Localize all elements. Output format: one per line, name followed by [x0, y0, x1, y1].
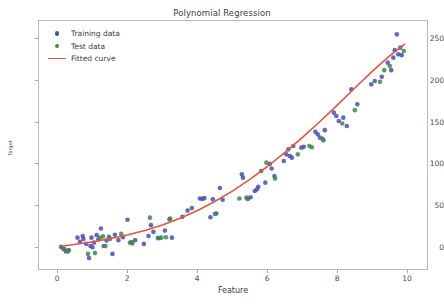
legend-dot-swatch — [55, 44, 60, 49]
data-point — [282, 159, 287, 164]
data-point — [185, 208, 190, 213]
data-point — [345, 124, 350, 129]
data-point — [125, 217, 130, 222]
data-point — [248, 195, 253, 200]
data-point — [202, 196, 207, 201]
data-point — [353, 108, 358, 113]
data-point — [146, 234, 151, 239]
legend-line-swatch — [48, 58, 66, 60]
data-point — [163, 228, 168, 233]
data-point — [340, 121, 345, 126]
legend-marker — [46, 44, 68, 49]
data-point — [190, 206, 195, 211]
data-point — [208, 215, 213, 220]
data-point — [103, 244, 108, 249]
data-point — [87, 256, 92, 261]
x-tick-mark — [337, 270, 338, 273]
data-point — [378, 80, 383, 85]
legend-label: Fitted curve — [71, 54, 116, 63]
data-point — [301, 145, 306, 150]
data-point — [369, 82, 374, 87]
data-point — [310, 145, 315, 150]
data-point — [142, 242, 147, 247]
scatter-series — [59, 32, 404, 260]
data-point — [148, 215, 153, 220]
data-point — [75, 235, 80, 240]
data-point — [86, 252, 91, 257]
data-point — [130, 241, 135, 246]
data-point — [149, 223, 154, 228]
legend-label: Test data — [71, 42, 105, 51]
legend-label: Training data — [71, 29, 120, 38]
legend-item[interactable]: Training data — [46, 29, 120, 38]
chart-legend: Training dataTest dataFitted curve — [43, 26, 126, 66]
y-axis-label: Target — [7, 118, 13, 178]
x-tick-label: 4 — [182, 274, 212, 283]
data-point — [241, 175, 246, 180]
data-point — [399, 53, 404, 58]
data-point — [168, 216, 173, 221]
data-point — [379, 75, 384, 80]
chart-figure: Polynomial Regression Target 05010015020… — [0, 0, 444, 304]
data-point — [389, 68, 394, 73]
data-point — [388, 64, 393, 69]
fitted-curve-line — [60, 44, 405, 246]
x-tick-label: 0 — [42, 274, 72, 283]
x-tick-label: 10 — [392, 274, 422, 283]
x-tick-mark — [57, 270, 58, 273]
data-point — [81, 237, 86, 242]
data-point — [244, 195, 249, 200]
data-point — [159, 235, 164, 240]
legend-dot-swatch — [55, 31, 60, 36]
data-point — [164, 235, 169, 240]
data-point — [264, 160, 269, 165]
data-point — [355, 102, 360, 107]
data-point — [66, 249, 71, 254]
data-point — [290, 155, 295, 160]
data-point — [93, 251, 98, 256]
data-point — [402, 49, 407, 54]
data-point — [116, 238, 121, 243]
data-point — [110, 252, 115, 257]
data-point — [99, 226, 104, 231]
legend-marker — [46, 58, 68, 60]
data-point — [218, 186, 223, 191]
data-point — [320, 136, 325, 141]
data-point — [256, 185, 261, 190]
data-point — [269, 166, 274, 171]
legend-item[interactable]: Fitted curve — [46, 54, 120, 63]
data-point — [273, 176, 278, 181]
data-point — [334, 114, 339, 119]
x-tick-label: 6 — [252, 274, 282, 283]
data-point — [151, 230, 156, 235]
x-tick-mark — [197, 270, 198, 273]
legend-item[interactable]: Test data — [46, 42, 120, 51]
data-point — [296, 152, 301, 157]
x-tick-mark — [127, 270, 128, 273]
data-point — [263, 180, 268, 185]
x-tick-mark — [407, 270, 408, 273]
data-point — [89, 235, 94, 240]
data-point — [113, 232, 118, 237]
data-point — [382, 68, 387, 73]
data-point — [395, 32, 400, 37]
data-point — [372, 79, 377, 84]
legend-marker — [46, 31, 68, 36]
data-point — [391, 55, 396, 60]
data-point — [170, 235, 175, 240]
x-tick-label: 2 — [112, 274, 142, 283]
data-point — [101, 234, 106, 239]
scatter-series — [62, 49, 406, 257]
data-point — [322, 128, 327, 133]
x-axis-label: Feature — [38, 286, 428, 295]
x-tick-mark — [267, 270, 268, 273]
data-point — [90, 245, 95, 250]
chart-title: Polynomial Regression — [0, 8, 444, 18]
x-tick-label: 8 — [322, 274, 352, 283]
data-point — [341, 115, 346, 120]
data-point — [237, 196, 242, 201]
data-point — [213, 212, 218, 217]
